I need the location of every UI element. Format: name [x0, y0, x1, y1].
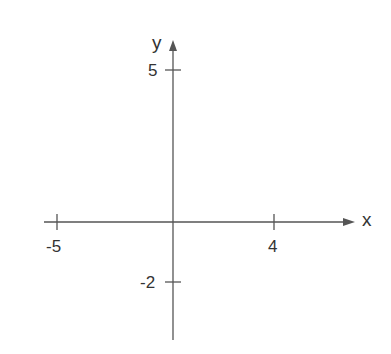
tick-label-y-5: 5: [148, 62, 157, 79]
tick-label-x-4: 4: [268, 238, 277, 255]
y-axis-label: y: [152, 33, 162, 52]
axes-svg: [0, 0, 391, 354]
y-arrowhead-icon: [169, 40, 177, 51]
tick-label-x-neg5: -5: [46, 238, 61, 255]
x-arrowhead-icon: [343, 218, 355, 226]
tick-label-y-neg2: -2: [140, 274, 155, 291]
x-axis-label: x: [362, 210, 372, 229]
